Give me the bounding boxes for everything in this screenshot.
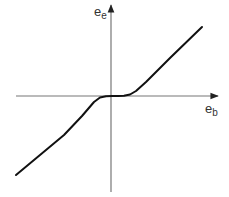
y-axis-label: ee (94, 4, 107, 21)
x-axis-label: eb (205, 101, 218, 118)
dead-zone-diagram: ee eb (0, 0, 229, 197)
characteristic-curve (16, 27, 202, 175)
